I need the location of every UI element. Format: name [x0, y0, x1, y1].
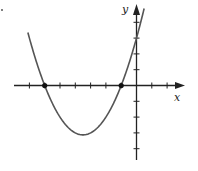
root-point — [119, 83, 124, 88]
root-point — [42, 83, 47, 88]
y-axis-arrow-icon — [133, 4, 140, 15]
x-axis — [14, 82, 185, 89]
x-axis-label: x — [174, 91, 181, 104]
y-axis-label: y — [121, 3, 129, 16]
parabola-graph: y x — [0, 0, 198, 171]
x-axis-arrow-icon — [175, 82, 185, 89]
corner-mark — [1, 9, 3, 11]
parabola-curve — [28, 8, 144, 134]
